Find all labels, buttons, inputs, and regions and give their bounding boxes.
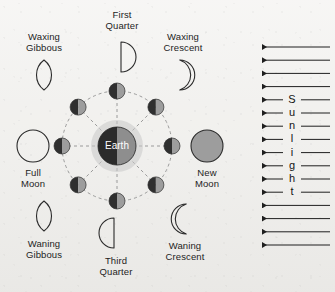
orbit-moon-first-quarter bbox=[109, 83, 125, 99]
moon-lit-half bbox=[156, 177, 164, 193]
moon-phases-diagram: EarthFirstQuarterWaxingGibbousWaxingCres… bbox=[0, 0, 335, 292]
sunlight-letter: g bbox=[285, 160, 299, 171]
moon-dark-half bbox=[54, 138, 62, 154]
moon-dark-half bbox=[109, 193, 117, 209]
sunlight-letter: h bbox=[285, 173, 299, 184]
phase-label-waxing-crescent: WaxingCrescent bbox=[147, 31, 219, 53]
moon-disc bbox=[191, 130, 223, 162]
phase-label-line2: Moon bbox=[172, 178, 242, 189]
sunlight-letter: u bbox=[285, 107, 299, 118]
moon-disc bbox=[121, 42, 136, 72]
sunlight-letter: S bbox=[285, 94, 299, 105]
phase-label-line1: New bbox=[172, 167, 242, 178]
phase-label-line2: Quarter bbox=[87, 20, 157, 31]
phase-label-line2: Quarter bbox=[81, 266, 151, 277]
phase-icon-full-moon bbox=[17, 130, 49, 162]
moon-disc bbox=[180, 60, 195, 90]
sunlight-letter: l bbox=[285, 133, 299, 144]
moon-dark-half bbox=[148, 99, 156, 115]
moon-disc bbox=[37, 60, 52, 90]
phase-icon-waning-gibbous bbox=[37, 201, 52, 231]
sunlight-letter: i bbox=[285, 147, 299, 158]
phase-label-line2: Gibbous bbox=[9, 249, 79, 260]
phase-icon-waning-crescent bbox=[171, 204, 186, 234]
moon-lit-half bbox=[62, 138, 70, 154]
sunlight-letter: t bbox=[285, 186, 299, 197]
phase-label-waning-gibbous: WaningGibbous bbox=[9, 238, 79, 260]
moon-dark-half bbox=[70, 99, 78, 115]
moon-disc bbox=[171, 204, 186, 234]
earth-label: Earth bbox=[87, 141, 147, 151]
orbit-moon-third-quarter bbox=[109, 193, 125, 209]
phase-label-line1: Waning bbox=[149, 240, 221, 251]
phase-label-third-quarter: ThirdQuarter bbox=[81, 255, 151, 277]
phase-label-first-quarter: FirstQuarter bbox=[87, 9, 157, 31]
moon-lit-half bbox=[172, 138, 180, 154]
phase-label-line1: Waning bbox=[9, 238, 79, 249]
orbit-moon-full bbox=[164, 138, 180, 154]
moon-lit-half bbox=[156, 99, 164, 115]
phase-label-line1: Waxing bbox=[147, 31, 219, 42]
phase-label-waxing-gibbous: WaxingGibbous bbox=[9, 31, 79, 53]
phase-icon-waxing-gibbous bbox=[37, 60, 52, 90]
phase-icon-new-moon bbox=[191, 130, 223, 162]
phase-label-line1: First bbox=[87, 9, 157, 20]
moon-dark-half bbox=[148, 177, 156, 193]
orbit-moon-waning-gibbous bbox=[148, 177, 164, 193]
phase-label-new-moon: NewMoon bbox=[172, 167, 242, 189]
moon-dark-half bbox=[70, 177, 78, 193]
phase-icon-first-quarter bbox=[121, 42, 136, 72]
phase-label-line2: Crescent bbox=[149, 251, 221, 262]
phase-label-line1: Third bbox=[81, 255, 151, 266]
orbit-moon-waxing-crescent bbox=[70, 99, 86, 115]
phase-label-line2: Gibbous bbox=[9, 42, 79, 53]
phase-label-line1: Waxing bbox=[9, 31, 79, 42]
moon-dark-half bbox=[164, 138, 172, 154]
phase-label-waning-crescent: WaningCrescent bbox=[149, 240, 221, 262]
sunlight-letter: n bbox=[285, 120, 299, 131]
moon-dark-half bbox=[109, 83, 117, 99]
moon-lit-half bbox=[117, 193, 125, 209]
phase-icon-waxing-crescent bbox=[180, 60, 195, 90]
moon-disc bbox=[17, 130, 49, 162]
moon-disc bbox=[99, 218, 114, 248]
phase-label-line1: Full bbox=[0, 167, 68, 178]
phase-label-full-moon: FullMoon bbox=[0, 167, 68, 189]
moon-disc bbox=[37, 201, 52, 231]
phase-label-line2: Crescent bbox=[147, 42, 219, 53]
moon-lit-half bbox=[117, 83, 125, 99]
phase-label-line2: Moon bbox=[0, 178, 68, 189]
orbit-moon-new bbox=[54, 138, 70, 154]
orbit-moon-waning-crescent bbox=[70, 177, 86, 193]
orbit-moon-waxing-gibbous bbox=[148, 99, 164, 115]
phase-icon-third-quarter bbox=[99, 218, 114, 248]
